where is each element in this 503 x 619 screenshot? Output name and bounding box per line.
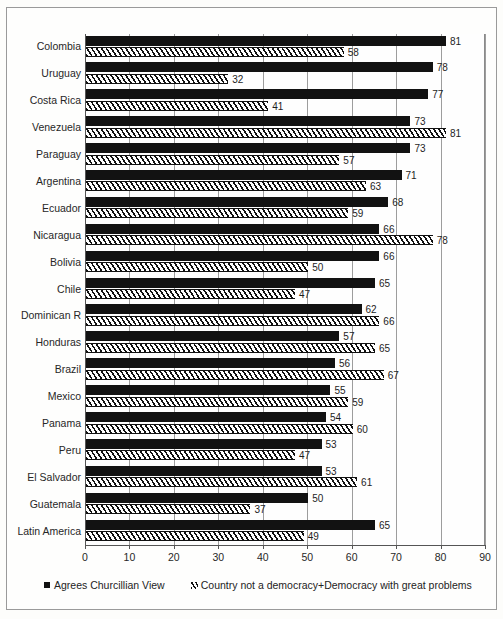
gridline-90 [485,34,486,545]
x-tick-label-0: 0 [72,551,98,563]
category-label: Peru [8,445,81,456]
bar-churcillian [86,62,433,72]
bar-group: 6549 [86,518,484,545]
bar-value-label: 57 [343,156,354,166]
bar-group: 6859 [86,195,484,222]
bar-not-democracy [86,370,384,380]
bar-not-democracy [86,477,357,487]
bar-not-democracy [86,155,339,165]
category-label: Honduras [8,337,81,348]
x-tick-10 [129,545,130,549]
category-label: Uruguay [8,68,81,79]
x-tick-20 [174,545,175,549]
bar-value-label: 37 [254,505,265,515]
bar-value-label: 66 [383,252,394,262]
category-label: Costa Rica [8,95,81,106]
x-tick-90 [485,545,486,549]
bar-value-label: 55 [334,386,345,396]
bar-value-label: 49 [308,532,319,542]
legend-label: Country not a democracy+Democracy with g… [201,579,472,591]
bar-churcillian [86,493,308,503]
bar-churcillian [86,170,402,180]
chart-screenshot: ColombiaUruguayCosta RicaVenezuelaParagu… [0,0,503,619]
x-tick-40 [263,545,264,549]
category-label: Nicaragua [8,230,81,241]
bar-value-label: 78 [437,63,448,73]
bar-value-label: 67 [388,371,399,381]
x-tick-30 [218,545,219,549]
x-tick-label-90: 90 [472,551,498,563]
bar-churcillian [86,36,446,46]
x-tick-label-30: 30 [205,551,231,563]
bar-not-democracy [86,504,250,514]
bar-churcillian [86,116,410,126]
bar-value-label: 54 [330,413,341,423]
bar-value-label: 47 [299,451,310,461]
category-label: Paraguay [8,149,81,160]
bar-value-label: 56 [339,359,350,369]
category-axis-labels: ColombiaUruguayCosta RicaVenezuelaParagu… [8,34,81,545]
x-tick-label-40: 40 [250,551,276,563]
bar-group: 7832 [86,61,484,88]
category-label: Dominican R [8,310,81,321]
bar-value-label: 41 [272,102,283,112]
category-label: Panama [8,418,81,429]
bar-not-democracy [86,289,295,299]
x-tick-80 [441,545,442,549]
bar-value-label: 47 [299,290,310,300]
bar-group: 5460 [86,411,484,438]
bar-value-label: 50 [312,263,323,273]
bar-value-label: 81 [450,37,461,47]
x-tick-label-10: 10 [116,551,142,563]
bar-churcillian [86,197,388,207]
bar-churcillian [86,89,428,99]
legend-label: Agrees Churcillian View [54,579,165,591]
x-tick-label-70: 70 [383,551,409,563]
bar-group: 6678 [86,222,484,249]
bar-value-label: 65 [379,279,390,289]
bar-value-label: 68 [392,198,403,208]
category-label: Argentina [8,176,81,187]
legend-item: Agrees Churcillian View [44,579,165,591]
bar-not-democracy [86,424,353,434]
bar-group: 6650 [86,249,484,276]
bar-group: 5347 [86,437,484,464]
bar-value-label: 65 [379,521,390,531]
category-label: Venezuela [8,122,81,133]
bar-value-label: 58 [348,48,359,58]
bar-not-democracy [86,343,375,353]
solid-square-icon [44,582,50,588]
bar-value-label: 60 [357,425,368,435]
bar-value-label: 77 [432,90,443,100]
category-label: Bolivia [8,257,81,268]
x-axis-line [85,545,486,546]
bar-value-label: 53 [326,467,337,477]
bar-not-democracy [86,262,308,272]
bar-value-label: 50 [312,494,323,504]
bar-not-democracy [86,181,366,191]
bar-not-democracy [86,450,295,460]
bar-group: 5667 [86,357,484,384]
bar-value-label: 81 [450,129,461,139]
bar-group: 7741 [86,88,484,115]
bar-group: 6266 [86,303,484,330]
legend-item: Country not a democracy+Democracy with g… [191,579,472,591]
bar-not-democracy [86,235,433,245]
chart-legend: Agrees Churcillian ViewCountry not a dem… [44,576,472,594]
category-label: Colombia [8,41,81,52]
category-label: El Salvador [8,472,81,483]
bar-group: 8158 [86,34,484,61]
bar-churcillian [86,466,322,476]
bar-not-democracy [86,128,446,138]
bar-churcillian [86,304,362,314]
bar-group: 6547 [86,276,484,303]
bar-churcillian [86,278,375,288]
category-label: Brazil [8,364,81,375]
bar-group: 5361 [86,464,484,491]
bar-churcillian [86,331,339,341]
bar-group: 7381 [86,115,484,142]
bar-value-label: 53 [326,440,337,450]
bar-value-label: 59 [352,398,363,408]
bar-value-label: 71 [406,171,417,181]
bar-value-label: 32 [232,75,243,85]
